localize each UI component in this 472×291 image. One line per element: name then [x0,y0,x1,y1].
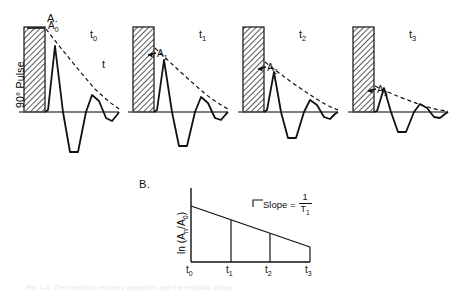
time-label-t1: t1 [199,28,206,43]
amp-sub: 2 [274,68,278,75]
time-sub: 1 [202,34,206,43]
fid-panel-t3 [348,27,448,132]
time-label-t0: t0 [90,28,97,43]
slope-numerator: 1 [299,193,312,203]
amp-letter: A [157,48,164,59]
amplitude-label-a3: A3 [377,84,388,97]
fid-waveform [45,46,119,152]
y-label-pre: ln (A [176,233,187,254]
tick-sub: 0 [189,270,193,277]
fid-waveform [264,72,338,138]
figure-caption: Fig. 4-5. The inversion-recovery sequenc… [26,284,233,291]
pulse-block-icon [24,27,45,112]
time-label-t3: t3 [409,28,416,43]
amp-letter: A [267,62,274,73]
pulse-block-icon [353,27,374,112]
slope-denominator: T1 [299,203,312,216]
panel-b-letter: B. [139,178,150,190]
time-sub: 3 [412,34,416,43]
time-label-t2: t2 [299,28,306,43]
fid-panel-t0 [19,27,119,152]
amplitude-label-a1: A1 [157,48,168,61]
amplitude-label-a0: A0 [48,20,59,33]
slope-text: Slope = [263,199,296,210]
time-axis-symbol: t [102,58,105,70]
slope-annotation: Slope = 1 T1 [263,193,312,216]
slope-fraction: 1 T1 [299,193,312,216]
panel-b-tick-t2: t2 [265,264,272,277]
fid-panel-t2 [238,27,338,138]
y-label-sub-0: 0 [182,215,189,219]
y-label-sub-n: n [182,229,189,233]
panel-a-y-axis-label: 90° Pulse [14,61,26,108]
tick-sub: 1 [229,270,233,277]
tick-sub: 2 [268,270,272,277]
amp-sub: 3 [384,90,388,97]
pulse-block-icon [133,27,154,112]
amp-letter: A [377,84,384,95]
amp-sub: 1 [164,54,168,61]
time-sub: 2 [302,34,306,43]
panel-b-tick-t0: t0 [186,264,193,277]
fid-waveform [154,60,228,146]
y-label-mid: /A [176,219,187,229]
y-label-post: ) [176,212,187,215]
slope-den-sub: 1 [306,209,310,216]
amp-sub: 0 [55,26,59,33]
fid-panel-t1 [128,27,228,146]
panel-b-y-axis-label: ln (An/A0) [176,212,189,254]
panel-b-tick-t3: t3 [305,264,312,277]
nmr-t1-relaxation-figure [0,0,472,291]
panel-b-tick-t1: t1 [226,264,233,277]
tick-sub: 3 [308,270,312,277]
amp-letter: A [48,20,55,31]
time-sub: 0 [93,34,97,43]
amplitude-label-a2: A2 [267,62,278,75]
slope-leader-line [253,200,263,207]
